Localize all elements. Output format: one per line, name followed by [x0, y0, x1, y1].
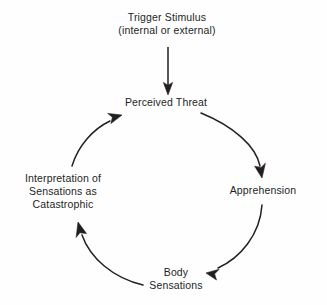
node-perceived-threat-line1: Perceived Threat	[125, 96, 207, 109]
node-interpretation-line1: Interpretation of	[25, 172, 101, 185]
arrow-apprehension-to-body-sensations	[206, 205, 262, 280]
arrow-body-sensations-to-interpretation	[76, 222, 143, 285]
node-body-sensations-line1: Body	[149, 266, 202, 279]
node-body-sensations: Body Sensations	[149, 266, 202, 292]
node-perceived-threat: Perceived Threat	[125, 96, 207, 109]
node-apprehension: Apprehension	[230, 184, 297, 197]
node-trigger-stimulus-line2: (internal or external)	[118, 24, 215, 37]
node-body-sensations-line2: Sensations	[149, 279, 202, 292]
node-trigger-stimulus-line1: Trigger Stimulus	[118, 11, 215, 24]
diagram-canvas: Trigger Stimulus (internal or external) …	[0, 0, 327, 305]
node-apprehension-line1: Apprehension	[230, 184, 297, 197]
node-interpretation-line3: Catastrophic	[25, 198, 101, 211]
node-interpretation-line2: Sensations as	[25, 185, 101, 198]
arrow-perceived-threat-to-apprehension	[201, 113, 265, 178]
node-interpretation: Interpretation of Sensations as Catastro…	[25, 172, 101, 211]
arrow-interpretation-to-perceived-threat	[72, 113, 122, 166]
arrow-trigger-to-perceived-threat	[163, 47, 172, 95]
node-trigger-stimulus: Trigger Stimulus (internal or external)	[118, 11, 215, 37]
cycle-arrows-group	[0, 0, 327, 305]
